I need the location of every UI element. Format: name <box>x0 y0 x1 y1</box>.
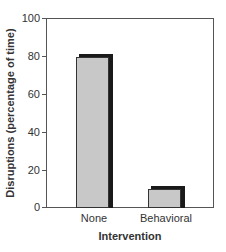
y-tick <box>42 207 47 208</box>
bar-none <box>76 57 109 208</box>
y-axis-title: Disruptions (percentage of time) <box>4 18 16 208</box>
y-tick <box>42 56 47 57</box>
bar-behavioral <box>148 189 181 208</box>
x-category-label: Behavioral <box>136 212 196 224</box>
y-tick <box>42 170 47 171</box>
y-tick <box>42 132 47 133</box>
y-tick <box>42 94 47 95</box>
plot-frame <box>46 18 214 208</box>
x-category-label: None <box>72 212 116 224</box>
y-tick <box>42 18 47 19</box>
x-axis-title: Intervention <box>46 230 214 242</box>
